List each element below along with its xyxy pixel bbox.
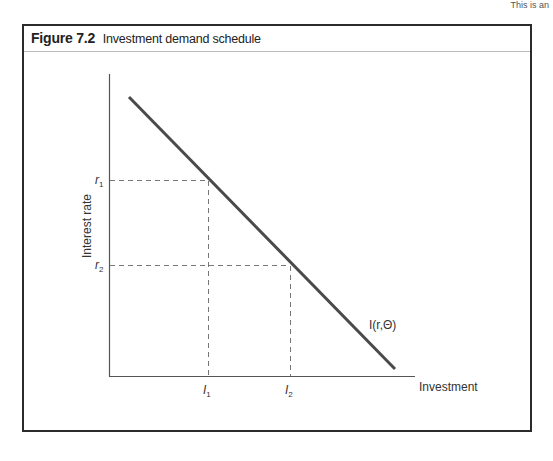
investment-demand-chart: Interest rate r1 r2 I1 I2 Investment I(r… [0,0,553,461]
curve-label: I(r,Θ) [369,318,396,332]
r2-label: r2 [95,258,104,274]
i2-label: I2 [285,383,293,399]
guide-lines [110,181,291,377]
investment-demand-curve [129,97,395,369]
x-axis-label: Investment [419,380,478,394]
r1-label: r1 [95,173,104,189]
y-axis-label: Interest rate [80,194,94,258]
i1-label: I1 [203,383,211,399]
